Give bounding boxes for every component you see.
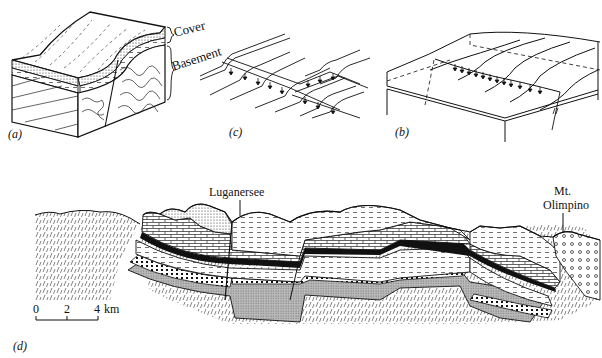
scale-tick-0: 0: [33, 303, 39, 315]
luganersee-label: Luganersee: [209, 186, 264, 198]
scale-tick-2: 2: [64, 303, 70, 315]
panel-d-cross-section: [0, 0, 602, 358]
mt-olimpino-label-line1: Mt.: [554, 185, 571, 197]
mt-olimpino-label-line2: Olimpino: [543, 199, 589, 211]
geology-figure: Cover Basement (a): [0, 0, 602, 358]
scale-bar: [36, 316, 98, 320]
panel-label-d: (d): [13, 340, 27, 352]
scale-unit: km: [104, 303, 119, 315]
scale-tick-4: 4: [94, 303, 100, 315]
